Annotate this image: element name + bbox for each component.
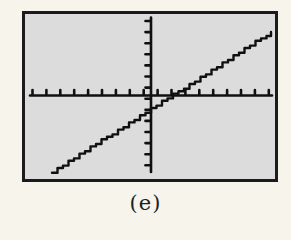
figure-container: (e) — [0, 0, 291, 240]
figure-label: (e) — [0, 191, 291, 215]
